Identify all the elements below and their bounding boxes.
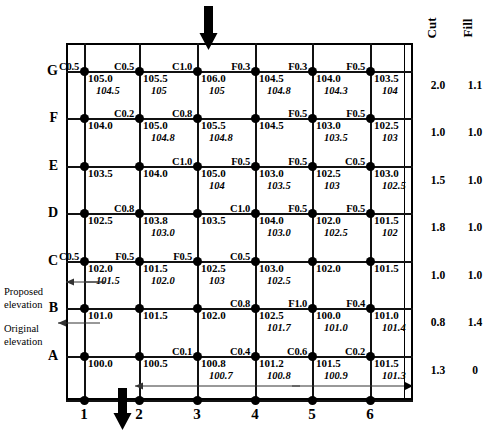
proposed-elevation-label-line2: elevation — [4, 298, 43, 311]
elevation-cell-A4: 101.2100.8 — [259, 358, 291, 381]
axis-node-4 — [251, 396, 260, 405]
original-elevation-value: 103.0 — [143, 227, 175, 238]
cut-fill-tag-E6: C0.5 — [345, 157, 370, 168]
grid-node-A1[interactable] — [80, 352, 89, 361]
cut-fill-tag-F2: C0.2 — [114, 109, 139, 120]
original-elevation-value: 104.3 — [316, 85, 348, 96]
elevation-cell-G3: 106.0105 — [201, 73, 226, 96]
proposed-elevation-value: 101.2 — [259, 357, 284, 369]
original-elevation-label-line2: elevation — [4, 335, 42, 348]
proposed-elevation-value: 100.0 — [316, 309, 341, 321]
grid-node-B2[interactable] — [135, 304, 144, 313]
grid-vline-3 — [197, 43, 199, 400]
row-label-D: D — [48, 205, 66, 221]
elevation-cell-G6: 103.5104 — [374, 73, 399, 96]
fill-value-A: 0 — [472, 364, 478, 376]
grid-node-E2[interactable] — [135, 162, 144, 171]
grid-node-D1[interactable] — [80, 209, 89, 218]
grid-vline-5 — [312, 43, 314, 400]
elevation-cell-E5: 102.5103 — [316, 168, 341, 191]
proposed-elevation-value: 104.5 — [259, 119, 284, 131]
cut-fill-tag-E5: F0.5 — [288, 157, 312, 168]
original-elevation-value: 100.9 — [316, 370, 348, 381]
cut-value-E: 1.5 — [431, 174, 445, 186]
proposed-elevation-value: 102.0 — [316, 214, 341, 226]
proposed-elevation-value: 102.0 — [201, 309, 226, 321]
original-elevation-value: 103.0 — [259, 227, 291, 238]
column-label-2: 2 — [135, 406, 143, 423]
fill-value-E: 1.0 — [468, 174, 482, 186]
cut-fill-tag-G2: C0.5 — [114, 62, 139, 73]
original-elevation-value: 103.5 — [316, 132, 348, 143]
cut-fill-tag-C4: C0.5 — [230, 252, 255, 263]
original-elevation-value: 102.5 — [374, 180, 406, 191]
row-label-A: A — [48, 348, 66, 364]
cut-fill-tag-E4: F0.5 — [231, 157, 255, 168]
cut-column-header: Cut — [424, 18, 440, 39]
elevation-cell-C2: 101.5102.0 — [143, 263, 175, 286]
grid-node-E1[interactable] — [80, 162, 89, 171]
axis-node-1 — [80, 396, 89, 405]
fill-value-D: 1.0 — [468, 221, 482, 233]
grid-vline-2 — [139, 43, 141, 400]
cut-fill-tag-C2: F0.5 — [115, 252, 139, 263]
elevation-cell-E1: 103.5 — [88, 168, 113, 180]
proposed-elevation-value: 101.5 — [143, 309, 168, 321]
elevation-cell-G5: 104.0104.3 — [316, 73, 348, 96]
original-elevation-value: 104.8 — [259, 85, 291, 96]
elevation-cell-F3: 105.5104.8 — [201, 120, 233, 143]
grid-node-D3[interactable] — [193, 209, 202, 218]
elevation-cell-A2: 100.5 — [143, 358, 168, 370]
grid-node-F1[interactable] — [80, 114, 89, 123]
fill-value-G: 1.1 — [468, 79, 482, 91]
elevation-cell-D4: 104.0103.0 — [259, 215, 291, 238]
elevation-cell-E6: 103.0102.5 — [374, 168, 406, 191]
original-elevation-value: 104.8 — [201, 132, 233, 143]
cut-fill-tag-C3: F0.5 — [173, 252, 197, 263]
cut-value-B: 0.8 — [431, 316, 445, 328]
fill-value-F: 1.0 — [468, 126, 482, 138]
grid-vline-7 — [404, 43, 405, 400]
grid-node-A2[interactable] — [135, 352, 144, 361]
row-label-G: G — [47, 63, 66, 79]
grid-vline-1 — [84, 43, 86, 400]
proposed-elevation-value: 103.0 — [374, 167, 399, 179]
original-elevation-value: 104 — [201, 180, 226, 191]
elevation-cell-A6: 101.5101.3 — [374, 358, 406, 381]
grid-vline-4 — [255, 43, 257, 400]
elevation-cell-D1: 102.5 — [88, 215, 113, 227]
elevation-cell-G1: 105.0104.5 — [88, 73, 120, 96]
proposed-elevation-value: 105.0 — [201, 167, 226, 179]
original-elevation-label-line1: Original — [4, 322, 42, 335]
elevation-cell-C3: 102.5103 — [201, 263, 226, 286]
proposed-elevation-value: 103.0 — [316, 119, 341, 131]
grid-node-C6[interactable] — [366, 257, 375, 266]
grid-node-B3[interactable] — [193, 304, 202, 313]
original-elevation-value: 103 — [201, 275, 226, 286]
cut-value-D: 1.8 — [431, 221, 445, 233]
proposed-elevation-value: 103.5 — [88, 167, 113, 179]
original-elevation-value: 101.5 — [88, 275, 120, 286]
elevation-cell-E4: 103.0103.5 — [259, 168, 291, 191]
axis-node-5 — [308, 396, 317, 405]
grid-hline-bottom — [66, 400, 413, 402]
elevation-cell-C1: 102.0101.5 — [88, 263, 120, 286]
original-elevation-value: 104.5 — [88, 85, 120, 96]
grid-node-F4[interactable] — [251, 114, 260, 123]
proposed-elevation-value: 102.0 — [316, 262, 341, 274]
original-elevation-value: 102.0 — [143, 275, 175, 286]
proposed-elevation-label-line1: Proposed — [4, 285, 43, 298]
cut-fill-tag-F3: C0.8 — [172, 109, 197, 120]
grid-node-C5[interactable] — [308, 257, 317, 266]
elevation-cell-F2: 105.0104.8 — [143, 120, 175, 143]
column-label-4: 4 — [251, 406, 259, 423]
grid-node-B1[interactable] — [80, 304, 89, 313]
original-elevation-value: 102 — [374, 227, 399, 238]
original-elevation-value: 101.0 — [316, 322, 348, 333]
elevation-cell-B3: 102.0 — [201, 310, 226, 322]
elevation-cell-D6: 101.5102 — [374, 215, 399, 238]
elevation-cell-F4: 104.5 — [259, 120, 284, 132]
elevation-cell-B2: 101.5 — [143, 310, 168, 322]
grid-vline-right — [411, 43, 412, 400]
proposed-elevation-annotation: Proposed elevation — [4, 285, 43, 311]
